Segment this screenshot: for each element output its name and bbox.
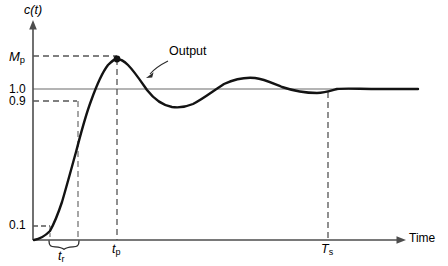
settling-time-label-base: T xyxy=(321,242,329,256)
rise-lower-tick-label: 0.1 xyxy=(9,219,26,231)
peak-point-marker xyxy=(114,56,121,63)
overshoot-label-subscript: p xyxy=(20,55,25,65)
output-annotation-label: Output xyxy=(169,45,207,58)
rise-time-label: tr xyxy=(58,250,64,264)
rise-time-label-subscript: r xyxy=(61,254,64,264)
rise-time-brace xyxy=(49,241,79,249)
peak-time-label-subscript: p xyxy=(115,247,120,257)
peak-time-label: tp xyxy=(112,243,121,257)
y-axis-title: c(t) xyxy=(24,4,42,17)
overshoot-label: Mp xyxy=(9,50,25,65)
plot-canvas xyxy=(0,0,448,266)
output-leader-line xyxy=(150,61,168,74)
rise-upper-tick-label: 0.9 xyxy=(9,95,26,107)
x-axis-title: Time xyxy=(409,232,435,244)
x-axis-arrowhead xyxy=(397,236,407,244)
overshoot-label-base: M xyxy=(9,49,20,64)
y-axis-arrowhead xyxy=(29,20,37,30)
settling-time-label-subscript: s xyxy=(329,247,334,257)
step-response-figure: c(t) Mp 1.0 0.9 0.1 tr tp Ts Output Time xyxy=(0,0,448,266)
output-arrowhead xyxy=(146,72,154,78)
response-curve xyxy=(34,59,418,240)
settling-time-label: Ts xyxy=(321,243,333,257)
